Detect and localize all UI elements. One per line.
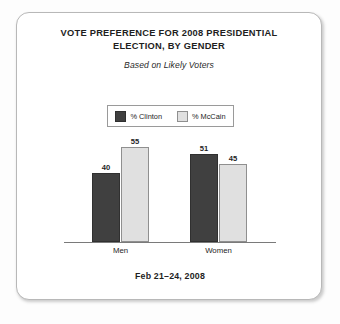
x-tick-label-men: Men — [92, 246, 149, 255]
bar-women-clinton[interactable]: 51 — [190, 154, 218, 242]
bar-value-women-mccain: 45 — [229, 154, 237, 163]
chart-card: VOTE PREFERENCE FOR 2008 PRESIDENTIAL EL… — [16, 12, 322, 300]
x-axis-line — [64, 242, 276, 243]
bar-women-mccain[interactable]: 45 — [219, 164, 247, 242]
chart-footer-date: Feb 21–24, 2008 — [17, 271, 323, 281]
bar-men-clinton[interactable]: 40 — [92, 173, 120, 242]
bar-men-mccain[interactable]: 55 — [121, 147, 149, 242]
bar-value-men-mccain: 55 — [131, 137, 139, 146]
bar-value-men-clinton: 40 — [102, 163, 110, 172]
bar-value-women-clinton: 51 — [200, 144, 208, 153]
plot-area: 40 55 51 45 Men Women — [17, 13, 323, 301]
x-tick-label-women: Women — [190, 246, 247, 255]
